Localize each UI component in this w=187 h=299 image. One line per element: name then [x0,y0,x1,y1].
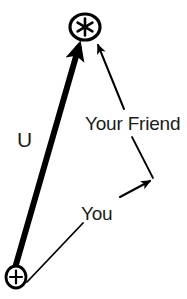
your-friend-arrow-line [98,45,124,109]
your-friend-leader-line [132,137,153,178]
vector-label-you: You [81,204,112,223]
vector-label-your-friend: Your Friend [85,114,180,133]
u-vector-line [15,46,79,268]
you-arrow-line [120,181,150,197]
circled-plus-icon [6,266,26,288]
circled-asterisk-icon [70,14,100,40]
vector-label-u: U [17,129,32,150]
vector-diagram-canvas: U Your Friend You [0,0,187,299]
you-leader-line [27,223,83,282]
